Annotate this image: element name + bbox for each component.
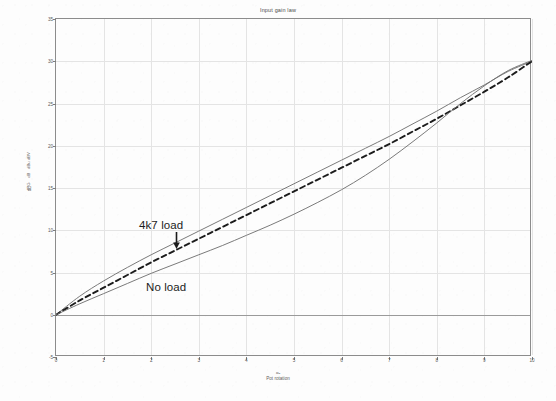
y-axis-title: dBV dBu dB G xyxy=(22,150,36,190)
x-tick-label: 9 xyxy=(483,358,486,363)
y-tick-label: 25 xyxy=(48,101,53,106)
data-curves xyxy=(56,19,532,357)
y-tick-label: 30 xyxy=(48,59,53,64)
y-tick-label: 0 xyxy=(50,312,53,317)
x-tick-label: 5 xyxy=(293,358,296,363)
y-tick-label: 10 xyxy=(48,228,53,233)
x-axis-title-text: Pot rotation xyxy=(266,376,290,381)
plot-area: 012345678910-505101520253035 xyxy=(56,19,530,355)
x-tick-label: 3 xyxy=(198,358,201,363)
x-tick-label: 7 xyxy=(388,358,391,363)
x-axis-title: αₐ Pot rotation xyxy=(0,370,556,383)
x-tick-label: 1 xyxy=(102,358,105,363)
y-tick-label: 15 xyxy=(48,186,53,191)
annotation-4k7-load: 4k7 load xyxy=(139,219,183,231)
y-tick-label: 35 xyxy=(48,17,53,22)
y-axis-unit-label: dB xyxy=(27,186,32,192)
chart-title: Input gain law xyxy=(0,7,556,13)
chart-page: Input gain law dBV dBu dB G dB 012345678… xyxy=(0,0,556,401)
x-tick-label: 4 xyxy=(245,358,248,363)
plot-frame: 012345678910-505101520253035 xyxy=(55,18,531,356)
annotation-no-load: No load xyxy=(146,281,186,293)
y-tick-label: 5 xyxy=(50,270,53,275)
series-line xyxy=(56,61,532,315)
y-tick-label: 20 xyxy=(48,143,53,148)
x-axis-symbol: αₐ xyxy=(0,370,556,376)
x-tick-label: 0 xyxy=(55,358,58,363)
series-line xyxy=(56,60,532,314)
annotation-arrow-icon xyxy=(172,232,181,249)
y-tick-mark xyxy=(53,357,56,358)
x-tick-label: 8 xyxy=(436,358,439,363)
x-tick-label: 2 xyxy=(150,358,153,363)
y-tick-label: -5 xyxy=(49,355,53,360)
gridline-vertical xyxy=(532,19,533,355)
series-line xyxy=(56,61,532,315)
x-tick-label: 6 xyxy=(340,358,343,363)
x-tick-label: 10 xyxy=(529,358,534,363)
